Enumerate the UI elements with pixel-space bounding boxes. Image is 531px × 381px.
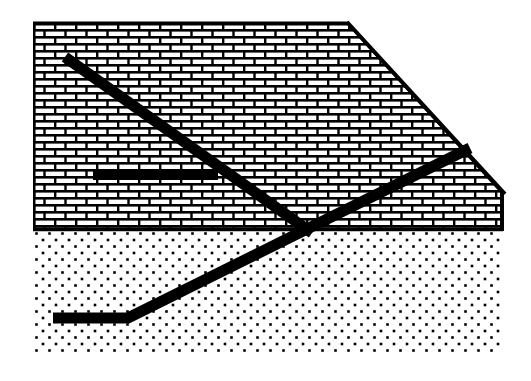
cross-section-canvas <box>0 0 531 381</box>
geological-cross-section-figure <box>0 0 531 381</box>
